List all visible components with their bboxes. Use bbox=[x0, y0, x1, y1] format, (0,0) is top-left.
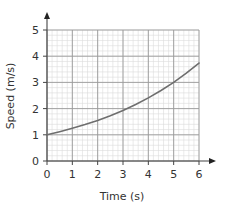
y-axis-label: Speed (m/s) bbox=[4, 63, 17, 130]
x-axis-label: Time (s) bbox=[99, 190, 145, 203]
x-tick-labels: 0123456 bbox=[44, 168, 203, 181]
x-tick-label: 1 bbox=[69, 168, 76, 181]
y-axis-arrow-icon bbox=[44, 12, 50, 19]
x-axis-arrow-icon bbox=[209, 158, 216, 164]
x-tick-label: 6 bbox=[196, 168, 203, 181]
x-tick-label: 4 bbox=[145, 168, 152, 181]
x-tick-label: 0 bbox=[44, 168, 51, 181]
y-tick-label: 2 bbox=[32, 103, 39, 116]
major-grid bbox=[47, 30, 199, 161]
x-tick-label: 5 bbox=[170, 168, 177, 181]
speed-time-chart: 0123456 012345 Time (s) Speed (m/s) bbox=[0, 0, 225, 217]
y-tick-label: 0 bbox=[32, 155, 39, 168]
x-tick-label: 2 bbox=[94, 168, 101, 181]
y-tick-labels: 012345 bbox=[32, 24, 39, 168]
y-tick-label: 3 bbox=[32, 76, 39, 89]
y-tick-label: 5 bbox=[32, 24, 39, 37]
y-tick-label: 4 bbox=[32, 50, 39, 63]
x-tick-label: 3 bbox=[120, 168, 127, 181]
y-tick-label: 1 bbox=[32, 129, 39, 142]
